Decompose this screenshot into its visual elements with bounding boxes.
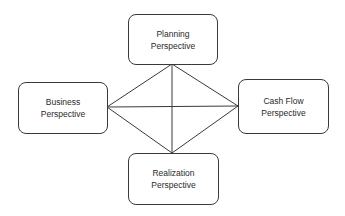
node-label-line1: Realization <box>151 167 195 179</box>
node-label-line2: Perspective <box>151 40 195 52</box>
node-business-perspective: BusinessPerspective <box>18 82 108 134</box>
edge-planning-cashflow <box>172 64 238 106</box>
node-label-line2: Perspective <box>261 107 305 119</box>
node-label-line2: Perspective <box>41 108 85 120</box>
node-label-line1: Cash Flow <box>261 95 305 107</box>
edge-business-cashflow <box>107 106 238 107</box>
edge-business-realization <box>107 107 172 153</box>
edge-planning-business <box>107 64 172 107</box>
node-label-line1: Business <box>41 96 85 108</box>
node-label-line2: Perspective <box>151 179 195 191</box>
node-cashflow-perspective: Cash FlowPerspective <box>238 79 329 134</box>
node-realization-perspective: RealizationPerspective <box>128 153 219 205</box>
edge-cashflow-realization <box>172 106 238 153</box>
node-planning-perspective: PlanningPerspective <box>128 14 218 65</box>
node-label-line1: Planning <box>151 28 195 40</box>
